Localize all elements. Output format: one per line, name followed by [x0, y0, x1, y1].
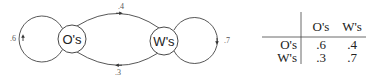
- edge-label-o-to-w: .4: [118, 2, 124, 11]
- row-header-ws: W's: [277, 50, 297, 65]
- cell-ws-os: .3: [316, 50, 326, 65]
- edge-o-to-w: .4: [77, 2, 159, 28]
- edge-label-w-to-o: .3: [115, 68, 121, 77]
- edge-label-w-to-w: .7: [224, 36, 230, 45]
- edge-w-to-w: .7: [174, 18, 230, 64]
- col-header-os: O's: [313, 19, 330, 34]
- edge-o-to-o: .6: [10, 16, 63, 62]
- node-os-label: O's: [62, 32, 82, 47]
- transition-table: O's W's O's .6 .4 W's .3 .7: [262, 12, 366, 65]
- markov-diagram: .6 .7 .4 .3 O's W's O's W's O's .6 .4 W'…: [0, 0, 382, 78]
- edge-w-to-o: .3: [77, 52, 158, 77]
- edge-label-o-to-o: .6: [10, 34, 16, 43]
- node-ws: W's: [150, 27, 178, 55]
- node-os: O's: [58, 25, 86, 53]
- cell-ws-ws: .7: [347, 50, 357, 65]
- node-ws-label: W's: [153, 34, 175, 49]
- col-header-ws: W's: [342, 19, 362, 34]
